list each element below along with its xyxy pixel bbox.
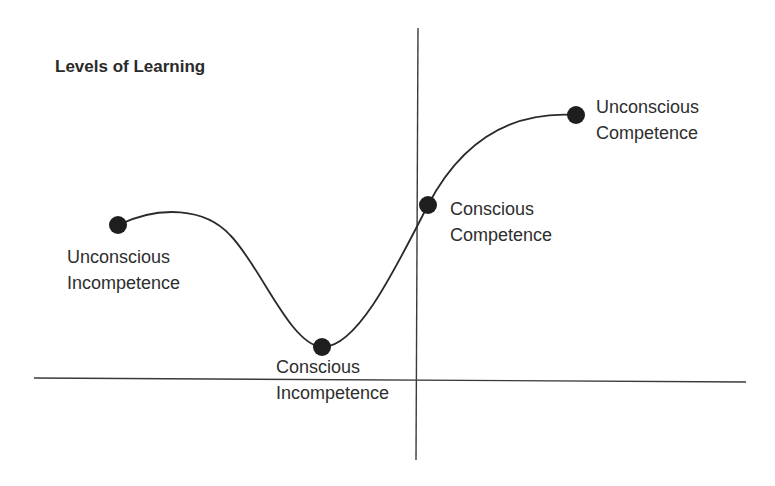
levels-of-learning-diagram: Levels of Learning Unconscious Incompete… <box>0 0 775 486</box>
label-line-2: Incompetence <box>276 380 389 406</box>
label-line-1: Conscious <box>450 196 552 222</box>
horizontal-axis <box>34 378 746 382</box>
label-unconscious-competence: Unconscious Competence <box>596 94 699 146</box>
label-unconscious-incompetence: Unconscious Incompetence <box>67 244 180 296</box>
label-line-1: Unconscious <box>596 94 699 120</box>
label-line-1: Conscious <box>276 354 389 380</box>
diagram-title: Levels of Learning <box>55 57 205 77</box>
point-conscious-competence <box>419 196 437 214</box>
label-line-2: Competence <box>596 120 699 146</box>
vertical-axis <box>416 28 418 460</box>
point-unconscious-incompetence <box>109 216 127 234</box>
label-line-2: Competence <box>450 222 552 248</box>
label-conscious-incompetence: Conscious Incompetence <box>276 354 389 406</box>
point-unconscious-competence <box>567 106 585 124</box>
label-line-2: Incompetence <box>67 270 180 296</box>
label-line-1: Unconscious <box>67 244 180 270</box>
label-conscious-competence: Conscious Competence <box>450 196 552 248</box>
